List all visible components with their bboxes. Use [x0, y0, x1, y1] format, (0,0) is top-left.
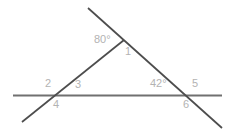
- label-apex-angle: 80°: [94, 34, 111, 45]
- label-angle-1: 1: [125, 46, 131, 57]
- angle-diagram-figure: 80° 1 2 3 4 42° 5 6: [0, 0, 237, 133]
- label-angle-5: 5: [192, 78, 198, 89]
- label-angle-42: 42°: [150, 78, 167, 89]
- right-transversal-line: [88, 8, 222, 128]
- label-angle-3: 3: [75, 79, 81, 90]
- label-angle-6: 6: [183, 99, 189, 110]
- label-angle-2: 2: [45, 78, 51, 89]
- diagram-canvas: [0, 0, 237, 133]
- left-transversal-line: [22, 40, 124, 122]
- label-angle-4: 4: [53, 99, 59, 110]
